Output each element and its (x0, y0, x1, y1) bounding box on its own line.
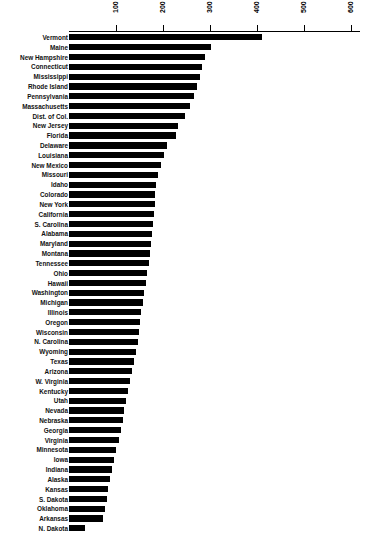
bar-category-label: Iowa (54, 455, 68, 465)
bar-row: S. Carolina (0, 220, 373, 230)
bar (69, 388, 128, 394)
bar-row: Iowa (0, 455, 373, 465)
bar-category-label: New York (39, 200, 68, 210)
bar-category-label: California (39, 210, 68, 220)
bar-row: Dist. of Col. (0, 112, 373, 122)
bar-category-label: Arkansas (39, 514, 68, 524)
bar-row: Missouri (0, 170, 373, 180)
bar (69, 250, 150, 256)
bar (69, 525, 85, 531)
bar-category-label: New Mexico (31, 161, 68, 171)
bar-category-label: Kentucky (39, 387, 68, 397)
bar (69, 103, 190, 109)
axis-tick-label: 500 (300, 1, 307, 13)
bar-category-label: Oklahoma (37, 504, 68, 514)
bar (69, 299, 143, 305)
bar-row: New Mexico (0, 161, 373, 171)
bar-category-label: Minnesota (36, 445, 68, 455)
bar-category-label: Louisiana (38, 151, 68, 161)
bar-category-label: Wisconsin (36, 328, 68, 338)
bar (69, 172, 158, 178)
chart-page: NATIONAL RANKING BY STATE 10020030040050… (0, 0, 373, 543)
bar (69, 142, 167, 148)
bar (69, 378, 130, 384)
bar-row: W. Virginia (0, 377, 373, 387)
bar-row: Wyoming (0, 347, 373, 357)
bar-row: New York (0, 200, 373, 210)
bar-category-label: Maine (50, 43, 68, 53)
bar-category-label: Hawaii (48, 279, 68, 289)
bar (69, 152, 164, 158)
bar-category-label: Montana (42, 249, 68, 259)
bar (69, 201, 155, 207)
bar (69, 417, 123, 423)
bar-category-label: Missouri (42, 170, 68, 180)
bar (69, 54, 205, 60)
bar-category-label: W. Virginia (35, 377, 68, 387)
bar-category-label: Virginia (45, 436, 68, 446)
bar-category-label: New Jersey (33, 121, 68, 131)
bar (69, 447, 116, 453)
bar-category-label: Wyoming (39, 347, 68, 357)
bar-row: S. Dakota (0, 495, 373, 505)
bar (69, 113, 185, 119)
bar-category-label: Washington (32, 288, 68, 298)
bar (69, 339, 138, 345)
bar-category-label: S. Dakota (39, 495, 68, 505)
bar-category-label: Vermont (42, 33, 68, 43)
bar-category-label: Utah (54, 396, 68, 406)
bar (69, 515, 103, 521)
bar-row: Utah (0, 396, 373, 406)
bar-row: Louisiana (0, 151, 373, 161)
bar-row: Hawaii (0, 279, 373, 289)
bar (69, 349, 136, 355)
bar (69, 457, 114, 463)
bar (69, 270, 147, 276)
bar-category-label: Mississippi (34, 72, 68, 82)
bar-row: Idaho (0, 180, 373, 190)
bar (69, 486, 108, 492)
axis-baseline (69, 31, 360, 32)
axis-tick-label: 400 (253, 1, 260, 13)
bar-category-label: Nevada (45, 406, 68, 416)
bar-category-label: Georgia (44, 426, 68, 436)
bar-category-label: Indiana (46, 465, 68, 475)
bar-category-label: N. Dakota (39, 524, 68, 534)
bar-row: New Hampshire (0, 53, 373, 63)
bar-row: Massachusetts (0, 102, 373, 112)
x-axis: 100200300400500600 (0, 12, 373, 32)
chart-title-cropped: NATIONAL RANKING BY STATE (0, 0, 373, 5)
bar (69, 182, 156, 188)
bar (69, 211, 154, 217)
bar-row: Ohio (0, 269, 373, 279)
bar-row: Florida (0, 131, 373, 141)
bar-row: N. Carolina (0, 337, 373, 347)
bar (69, 280, 146, 286)
bar-row: Arizona (0, 367, 373, 377)
bar-row: Vermont (0, 33, 373, 43)
bar (69, 407, 124, 413)
bar (69, 34, 262, 40)
bar (69, 319, 140, 325)
bar (69, 358, 134, 364)
bar-category-label: S. Carolina (35, 220, 68, 230)
bar-row: Georgia (0, 426, 373, 436)
bar-row: Mississippi (0, 72, 373, 82)
bar-row: Nebraska (0, 416, 373, 426)
bar (69, 191, 155, 197)
bar-category-label: Maryland (40, 239, 68, 249)
bar-category-label: Alaska (47, 475, 68, 485)
bar (69, 398, 126, 404)
bar-row: Delaware (0, 141, 373, 151)
bar-category-label: Oregon (45, 318, 68, 328)
bar (69, 437, 119, 443)
bar-category-label: Illinois (48, 308, 68, 318)
bar (69, 466, 112, 472)
bar (69, 476, 110, 482)
bar-row: Washington (0, 288, 373, 298)
bar-row: Virginia (0, 436, 373, 446)
bar-category-label: Connecticut (31, 62, 68, 72)
bar-category-label: Ohio (53, 269, 68, 279)
axis-tick-label: 600 (347, 1, 354, 13)
bar-row: California (0, 210, 373, 220)
